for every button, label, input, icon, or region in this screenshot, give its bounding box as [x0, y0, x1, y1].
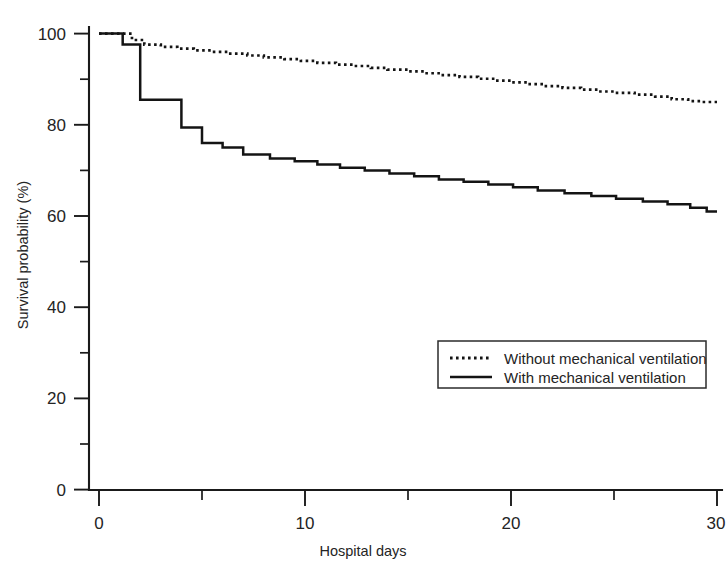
y-tick-label-60: 60: [47, 207, 66, 226]
survival-curve-figure: 100 80 60 40 20 0 0 10 20 30 Hospital da…: [0, 0, 726, 565]
chart-background: [0, 0, 726, 565]
y-tick-label-80: 80: [47, 116, 66, 135]
chart-legend: Without mechanical ventilation With mech…: [438, 341, 707, 388]
x-axis-title: Hospital days: [319, 543, 406, 559]
y-tick-label-40: 40: [47, 298, 66, 317]
legend-label-with-ventilation: With mechanical ventilation: [504, 369, 686, 386]
y-tick-label-0: 0: [57, 481, 66, 500]
y-tick-label-20: 20: [47, 389, 66, 408]
x-tick-label-20: 20: [502, 514, 521, 533]
legend-label-without-ventilation: Without mechanical ventilation: [504, 350, 707, 367]
x-tick-label-10: 10: [296, 514, 315, 533]
x-tick-label-30: 30: [707, 514, 726, 533]
y-tick-label-100: 100: [38, 25, 66, 44]
y-axis-title: Survival probability (%): [15, 181, 31, 329]
kaplan-meier-chart: 100 80 60 40 20 0 0 10 20 30 Hospital da…: [0, 0, 726, 565]
x-tick-label-0: 0: [94, 514, 103, 533]
